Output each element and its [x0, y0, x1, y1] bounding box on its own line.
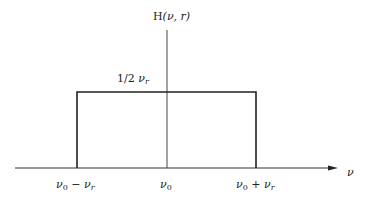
- tick-label-center: ν0: [160, 178, 172, 192]
- level-label: 1/2 νr: [117, 72, 149, 86]
- x-axis-label: ν: [347, 166, 354, 179]
- rect-function-plot: [0, 0, 373, 203]
- tick-label-upper: ν0 + νr: [236, 178, 275, 192]
- function-title: H(ν, r): [153, 10, 190, 23]
- tick-label-lower: ν0 − νr: [56, 178, 95, 192]
- x-axis-arrow-icon: [328, 166, 338, 171]
